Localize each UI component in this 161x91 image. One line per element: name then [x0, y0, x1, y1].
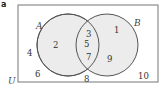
element-2: 2	[53, 40, 58, 50]
element-4: 4	[27, 48, 32, 58]
element-10: 10	[138, 71, 149, 81]
element-5: 5	[84, 39, 89, 49]
element-1: 1	[114, 25, 119, 35]
element-7: 7	[86, 52, 91, 62]
element-8: 8	[84, 74, 89, 84]
element-3: 3	[86, 29, 91, 39]
element-6: 6	[35, 69, 40, 79]
venn-diagram: A B U 2 3 5 7 1 9 4 6 8 10	[0, 0, 161, 91]
element-9: 9	[107, 54, 112, 64]
set-a-label: A	[35, 21, 43, 31]
set-b-label: B	[133, 18, 141, 28]
universal-set-label: U	[8, 76, 16, 86]
